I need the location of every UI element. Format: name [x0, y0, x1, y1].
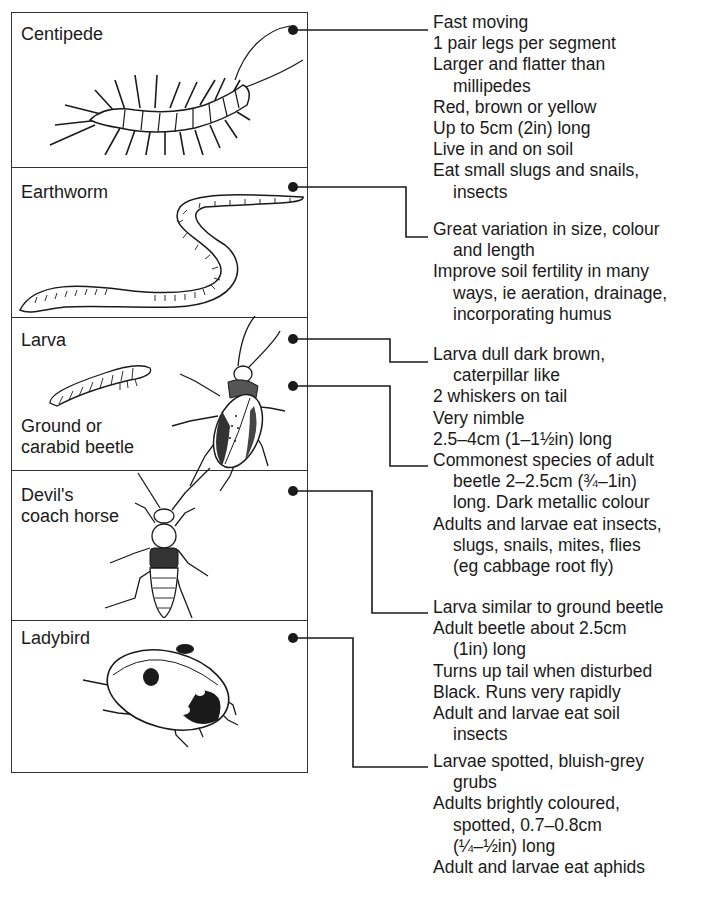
- note-line: Larger and flatter than: [433, 54, 639, 75]
- notes-ground-beetle: Commonest species of adult beetle 2–2.5c…: [433, 450, 662, 577]
- note-line: Adults and larvae eat insects,: [433, 514, 662, 535]
- note-line: Great variation in size, colour: [433, 219, 667, 240]
- note-line: (1in) long: [433, 639, 664, 660]
- note-line: (eg cabbage root fly): [433, 556, 662, 577]
- note-line: Fast moving: [433, 12, 639, 33]
- note-line: Adult and larvae eat aphids: [433, 857, 645, 878]
- note-line: grubs: [433, 772, 645, 793]
- note-line: Live in and on soil: [433, 139, 639, 160]
- note-line: Adult and larvae eat soil: [433, 703, 664, 724]
- notes-ladybird: Larvae spotted, bluish-grey grubs Adults…: [433, 751, 645, 878]
- note-line: Adult beetle about 2.5cm: [433, 618, 664, 639]
- note-line: millipedes: [433, 76, 639, 97]
- note-line: 2 whiskers on tail: [433, 386, 612, 407]
- leader-dot: [288, 334, 298, 344]
- note-line: incorporating humus: [433, 304, 667, 325]
- note-line: long. Dark metallic colour: [433, 492, 662, 513]
- note-line: beetle 2–2.5cm (¾–1in): [433, 471, 662, 492]
- note-line: Commonest species of adult: [433, 450, 662, 471]
- notes-centipede: Fast moving 1 pair legs per segment Larg…: [433, 12, 639, 203]
- note-line: Larva similar to ground beetle: [433, 597, 664, 618]
- note-line: Turns up tail when disturbed: [433, 661, 664, 682]
- note-line: Up to 5cm (2in) long: [433, 118, 639, 139]
- note-line: spotted, 0.7–0.8cm: [433, 815, 645, 836]
- note-line: 2.5–4cm (1–1½in) long: [433, 429, 612, 450]
- note-line: Larvae spotted, bluish-grey: [433, 751, 645, 772]
- note-line: slugs, snails, mites, flies: [433, 535, 662, 556]
- notes-larva: Larva dull dark brown, caterpillar like …: [433, 344, 612, 450]
- note-line: caterpillar like: [433, 365, 612, 386]
- note-line: insects: [433, 182, 639, 203]
- note-line: Larva dull dark brown,: [433, 344, 612, 365]
- note-line: ways, ie aeration, drainage,: [433, 283, 667, 304]
- leader-dot: [288, 25, 298, 35]
- leader-dot: [288, 633, 298, 643]
- notes-earthworm: Great variation in size, colour and leng…: [433, 219, 667, 325]
- leader-dot: [288, 381, 298, 391]
- leader-dot: [288, 182, 298, 192]
- note-line: Very nimble: [433, 408, 612, 429]
- leader-dot: [288, 486, 298, 496]
- note-line: Improve soil fertility in many: [433, 261, 667, 282]
- notes-devils-coach-horse: Larva similar to ground beetle Adult bee…: [433, 597, 664, 745]
- note-line: (¼–½in) long: [433, 836, 645, 857]
- note-line: insects: [433, 724, 664, 745]
- note-line: and length: [433, 240, 667, 261]
- note-line: Black. Runs very rapidly: [433, 682, 664, 703]
- note-line: 1 pair legs per segment: [433, 33, 639, 54]
- note-line: Adults brightly coloured,: [433, 793, 645, 814]
- note-line: Eat small slugs and snails,: [433, 160, 639, 181]
- note-line: Red, brown or yellow: [433, 97, 639, 118]
